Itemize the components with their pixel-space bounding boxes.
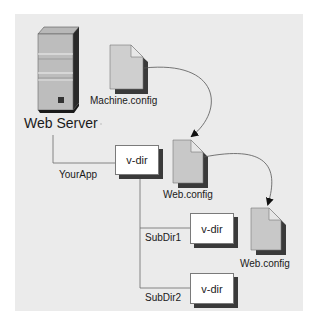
- web-server-label: Web Server: [24, 116, 98, 130]
- subdir2-vdir-box: v-dir: [190, 273, 234, 304]
- app-web-config-label: Web.config: [163, 190, 213, 200]
- server-icon: [38, 27, 79, 113]
- subdir1-label: SubDir1: [145, 233, 181, 243]
- yourapp-label: YourApp: [59, 170, 97, 180]
- subdir1-vdir-box: v-dir: [190, 213, 234, 244]
- app-vdir-label: v-dir: [126, 154, 147, 166]
- subdir2-label: SubDir2: [145, 293, 181, 303]
- machine-config-document-icon: [110, 45, 148, 94]
- app-web-config-document-icon: [173, 140, 208, 188]
- subdir1-web-config-label: Web.config: [240, 259, 290, 269]
- subdir1-web-config-document-icon: [251, 208, 286, 255]
- inherit-arrow-app-to-subdir1: [204, 154, 272, 204]
- app-vdir-box: v-dir: [115, 145, 159, 175]
- machine-config-label: Machine.config: [90, 96, 157, 106]
- subdir1-vdir-label: v-dir: [201, 223, 222, 235]
- subdir2-vdir-label: v-dir: [201, 283, 222, 295]
